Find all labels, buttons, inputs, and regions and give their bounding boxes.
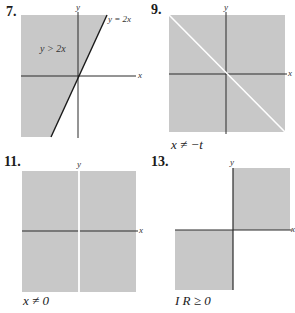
x-axis-label: x	[288, 68, 292, 78]
region-graph-11	[0, 150, 145, 313]
x-axis-label: x	[138, 70, 142, 80]
caption: I R ≥ 0	[175, 293, 211, 309]
region-graph-13	[145, 150, 295, 313]
y-axis-label: y	[224, 2, 228, 12]
caption: x ≠ 0	[23, 293, 49, 309]
panel-13: 13. y x I R ≥ 0	[145, 150, 295, 313]
y-axis-label: y	[77, 159, 81, 169]
panel-11: 11. y x x ≠ 0	[0, 150, 145, 313]
panel-9: 9. y x x ≠ −t	[145, 0, 295, 165]
line-label: y = 2x	[108, 14, 131, 24]
y-axis-label: y	[76, 2, 80, 12]
y-axis-label: y	[230, 157, 234, 167]
region-graph-9	[145, 0, 295, 165]
x-axis-label: x	[139, 225, 143, 235]
region-label: y > 2x	[40, 43, 66, 54]
x-axis-label: x	[291, 224, 295, 234]
panel-7: 7. y x y = 2x y > 2x	[0, 0, 145, 150]
